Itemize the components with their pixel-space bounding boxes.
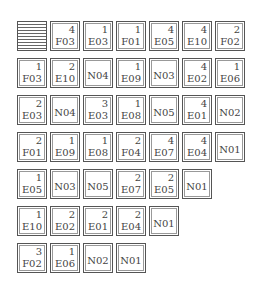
tile[interactable]: 1E06 (50, 243, 80, 273)
tile-grid: 4F031E031F014E054E102F021F032E10N041E09N… (17, 21, 245, 280)
tile-code: N03 (150, 70, 178, 81)
tile[interactable]: N01 (116, 243, 146, 273)
tile-code: F02 (216, 36, 244, 47)
tile-code: E08 (84, 147, 112, 158)
tile-code: E03 (18, 110, 46, 121)
tile-row: 1F032E10N041E09N034E021E06 (17, 58, 245, 88)
tile-code: E01 (84, 221, 112, 232)
tile-count: 4 (69, 25, 75, 35)
tile-count: 3 (36, 247, 42, 257)
tile-code: F01 (18, 147, 46, 158)
tile[interactable]: 2F04 (116, 132, 146, 162)
tile[interactable]: N01 (149, 206, 179, 236)
tile-code: E03 (84, 110, 112, 121)
tile-count: 1 (102, 25, 108, 35)
tile[interactable]: 1E09 (50, 132, 80, 162)
tile-code: E02 (51, 221, 79, 232)
tile-code: E10 (183, 36, 211, 47)
tile[interactable]: 1E10 (17, 206, 47, 236)
tile[interactable]: 1E06 (215, 58, 245, 88)
tile-code: E04 (183, 147, 211, 158)
tile[interactable]: 2E02 (50, 206, 80, 236)
tile[interactable]: N04 (50, 95, 80, 125)
tile[interactable]: 4E05 (149, 21, 179, 51)
tile-code: N02 (216, 107, 244, 118)
tile[interactable]: 1E08 (116, 95, 146, 125)
tile[interactable]: 4E01 (182, 95, 212, 125)
tile-code: E06 (51, 258, 79, 269)
tile[interactable]: 4E04 (182, 132, 212, 162)
tile-count: 1 (135, 99, 141, 109)
tile-count: 4 (168, 25, 174, 35)
tile[interactable]: 1F01 (116, 21, 146, 51)
tile[interactable]: 4F03 (50, 21, 80, 51)
tile[interactable]: 3F02 (17, 243, 47, 273)
tile-code: E02 (183, 73, 211, 84)
tile[interactable]: 2E01 (83, 206, 113, 236)
tile-code: E09 (117, 73, 145, 84)
tile-count: 2 (135, 173, 141, 183)
tile-code: F04 (117, 147, 145, 158)
tile-code: E07 (117, 184, 145, 195)
tile-count: 1 (69, 136, 75, 146)
tile[interactable]: 1E03 (83, 21, 113, 51)
tile-count: 1 (36, 62, 42, 72)
tile-count: 2 (135, 136, 141, 146)
tile-count: 4 (201, 25, 207, 35)
tile-row: 1E102E022E012E04N01 (17, 206, 245, 236)
tile[interactable]: 4E07 (149, 132, 179, 162)
tile[interactable]: N02 (83, 243, 113, 273)
tile-code: E10 (51, 73, 79, 84)
tile[interactable]: 2E07 (116, 169, 146, 199)
tile-count: 4 (168, 136, 174, 146)
tile[interactable]: 2F02 (215, 21, 245, 51)
tile-code: N02 (84, 255, 112, 266)
tile-row: 2E03N043E031E08N054E01N02 (17, 95, 245, 125)
tile[interactable]: N03 (50, 169, 80, 199)
tile-row: 1E05N03N052E072E05N01 (17, 169, 245, 199)
tile-code: E03 (84, 36, 112, 47)
striped-tile[interactable] (17, 21, 47, 51)
tile-code: E05 (150, 184, 178, 195)
tile-count: 2 (102, 210, 108, 220)
tile[interactable]: N02 (215, 95, 245, 125)
tile-code: N05 (150, 107, 178, 118)
tile-count: 3 (102, 99, 108, 109)
tile[interactable]: N05 (83, 169, 113, 199)
tile[interactable]: 2E04 (116, 206, 146, 236)
tile[interactable]: N01 (182, 169, 212, 199)
tile[interactable]: N01 (215, 132, 245, 162)
tile-count: 1 (69, 247, 75, 257)
tile-code: E08 (117, 110, 145, 121)
tile-code: E05 (18, 184, 46, 195)
tile[interactable]: 1E08 (83, 132, 113, 162)
tile[interactable]: N04 (83, 58, 113, 88)
tile[interactable]: N03 (149, 58, 179, 88)
tile-row: 3F021E06N02N01 (17, 243, 245, 273)
tile[interactable]: 4E10 (182, 21, 212, 51)
tile[interactable]: 2F01 (17, 132, 47, 162)
tile-count: 1 (102, 136, 108, 146)
tile[interactable]: 1E09 (116, 58, 146, 88)
tile-code: E01 (183, 110, 211, 121)
tile-code: N03 (51, 181, 79, 192)
tile[interactable]: 2E10 (50, 58, 80, 88)
tile-code: F01 (117, 36, 145, 47)
tile-code: N04 (51, 107, 79, 118)
tile-count: 2 (69, 62, 75, 72)
tile-count: 1 (36, 210, 42, 220)
tile[interactable]: 2E03 (17, 95, 47, 125)
tile-count: 2 (234, 25, 240, 35)
tile[interactable]: 4E02 (182, 58, 212, 88)
tile-code: E05 (150, 36, 178, 47)
tile[interactable]: 2E05 (149, 169, 179, 199)
tile[interactable]: 3E03 (83, 95, 113, 125)
tile[interactable]: N05 (149, 95, 179, 125)
tile[interactable]: 1E05 (17, 169, 47, 199)
tile-code: N01 (117, 255, 145, 266)
tile-count: 2 (168, 173, 174, 183)
tile-row: 2F011E091E082F044E074E04N01 (17, 132, 245, 162)
tile-code: N04 (84, 70, 112, 81)
tile[interactable]: 1F03 (17, 58, 47, 88)
tile-row: 4F031E031F014E054E102F02 (17, 21, 245, 51)
